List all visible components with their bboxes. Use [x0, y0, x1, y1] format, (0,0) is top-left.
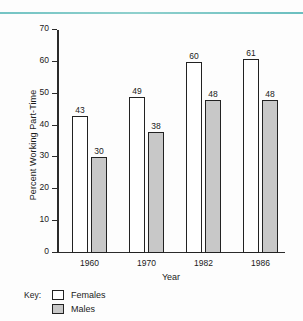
y-axis-tick-label: 60 — [40, 55, 49, 65]
legend-swatch-males — [52, 304, 64, 314]
bar-value-label: 61 — [246, 48, 255, 58]
legend-label-males: Males — [71, 304, 95, 314]
bar-group: 6148 — [243, 30, 278, 253]
legend-item-females: Females — [52, 288, 106, 302]
bar-group: 6048 — [186, 30, 221, 253]
legend: Key: Females Males — [24, 288, 106, 316]
bar-value-label: 60 — [189, 51, 198, 61]
y-axis-tick-label: 70 — [40, 23, 49, 33]
y-axis-tick-label: 20 — [40, 182, 49, 192]
bar-group: 4938 — [129, 30, 164, 253]
y-axis-tick-label: 30 — [40, 150, 49, 160]
y-axis-tick-label: 40 — [40, 119, 49, 129]
bar-value-label: 49 — [132, 86, 141, 96]
y-axis-tick-label: 50 — [40, 87, 49, 97]
x-axis-title: Year — [57, 272, 285, 282]
bar-females-1960: 43 — [72, 116, 88, 253]
bar-value-label: 43 — [75, 105, 84, 115]
bar-females-1986: 61 — [243, 59, 259, 253]
bar-females-1970: 49 — [129, 97, 145, 253]
bar-value-label: 48 — [208, 89, 217, 99]
bar-females-1982: 60 — [186, 62, 202, 253]
legend-item-males: Males — [52, 302, 106, 316]
bar-value-label: 48 — [265, 89, 274, 99]
x-axis-tick-label-1986: 1986 — [236, 258, 286, 268]
x-axis-tick-label-1982: 1982 — [179, 258, 229, 268]
y-axis-tick-label: 10 — [40, 214, 49, 224]
bar-males-1970: 38 — [148, 132, 164, 253]
bar-males-1986: 48 — [262, 100, 278, 253]
bar-value-label: 38 — [151, 121, 160, 131]
y-axis-tick-label: 0 — [44, 246, 49, 256]
legend-swatch-females — [52, 290, 64, 300]
legend-title: Key: — [24, 290, 41, 300]
bar-chart-figure: Percent Working Part-Time 01020304050607… — [0, 0, 303, 321]
bar-group: 4330 — [72, 30, 107, 253]
plot-area: 010203040506070 4330493860486148 1960197… — [57, 30, 285, 253]
legend-label-females: Females — [71, 290, 106, 300]
bar-value-label: 30 — [94, 146, 103, 156]
y-axis-title: Percent Working Part-Time — [28, 50, 38, 240]
bar-males-1982: 48 — [205, 100, 221, 253]
x-axis-tick-label-1960: 1960 — [65, 258, 115, 268]
bar-groups: 4330493860486148 — [57, 30, 285, 253]
x-axis-tick-label-1970: 1970 — [122, 258, 172, 268]
bar-males-1960: 30 — [91, 157, 107, 253]
